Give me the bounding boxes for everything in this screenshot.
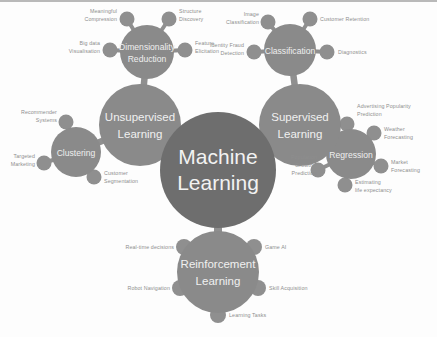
leaf-label-estimating-life-expectancy: Estimating life expectancy [355, 179, 392, 193]
hub-label-clustering: Clustering [57, 148, 96, 158]
leaf-label-diagnostics-line1: Diagnostics [338, 49, 367, 55]
leaf-node-targeted-marketing[interactable] [37, 156, 52, 171]
hub-label-supervised-line2: Learning [278, 128, 323, 140]
leaf-label-meaningful-compression-line1: Meaningful [90, 8, 117, 14]
leaf-label-skill-acquisition-line1: Skill Acquisition [269, 285, 308, 291]
leaf-label-game-ai: Game AI [265, 244, 286, 250]
leaf-label-feature-elicitation-line2: Elicitation [195, 48, 219, 54]
leaf-label-robot-navigation-line1: Robot Navigation [127, 285, 170, 291]
leaf-label-real-time-decisions: Real-time decisions [126, 244, 175, 250]
hub-label-classification: Classification [265, 46, 316, 56]
leaf-node-market-forecasting[interactable] [374, 159, 389, 174]
mind-map-canvas: Machine Learning Unsupervised Learning S… [0, 0, 437, 337]
leaf-label-market-forecasting-line2: Forecasting [391, 167, 420, 173]
hub-label-dimensionality-reduction-line1: Dimensionality [119, 42, 176, 52]
leaf-label-targeted-marketing-line1: Targeted [13, 153, 35, 159]
leaf-label-robot-navigation: Robot Navigation [127, 285, 170, 291]
leaf-label-weather-forecasting-line2: Forecasting [384, 134, 413, 140]
leaf-label-image-classification-line2: Classification [226, 19, 259, 25]
hub-label-reinforcement-line2: Learning [196, 275, 241, 287]
leaf-node-diagnostics[interactable] [320, 45, 335, 60]
leaf-label-structure-discovery: Structure Discovery [179, 8, 204, 22]
leaf-label-targeted-marketing: Targeted Marketing [11, 153, 35, 167]
hub-node-reinforcement-learning[interactable] [177, 231, 259, 313]
leaf-node-image-classification[interactable] [261, 15, 276, 30]
leaf-label-customer-segmentation-line2: Segmentation [104, 178, 138, 184]
leaf-label-skill-acquisition: Skill Acquisition [269, 285, 308, 291]
leaf-label-identity-fraud-detection-line1: Identity Fraud [210, 42, 244, 48]
leaf-label-big-data-visualisation: Big data Visualisation [69, 40, 100, 54]
leaf-label-real-time-decisions-line1: Real-time decisions [126, 244, 175, 250]
leaf-label-identity-fraud-detection-line2: Detection [221, 50, 244, 56]
hub-label-unsupervised-line1: Unsupervised [105, 111, 175, 123]
leaf-label-advertising-popularity-prediction-line2: Prediction [357, 111, 382, 117]
leaf-label-customer-retention: Customer Retention [320, 16, 369, 22]
leaf-label-structure-discovery-line1: Structure [179, 8, 202, 14]
leaf-node-recommender-systems[interactable] [59, 115, 74, 130]
leaf-label-recommender-systems-line1: Recommender [21, 109, 57, 115]
leaf-label-estimating-life-expectancy-line2: life expectancy [355, 187, 392, 193]
leaf-label-image-classification: Image Classification [226, 11, 259, 25]
leaf-label-weather-forecasting-line1: Weather [384, 126, 405, 132]
leaf-label-learning-tasks-line1: Learning Tasks [229, 312, 266, 318]
leaf-label-diagnostics: Diagnostics [338, 49, 367, 55]
leaf-label-customer-retention-line1: Customer Retention [320, 16, 369, 22]
leaf-node-structure-discovery[interactable] [162, 12, 177, 27]
leaf-label-customer-segmentation: Customer Segmentation [104, 170, 138, 184]
machine-learning-mind-map: Machine Learning Unsupervised Learning S… [0, 0, 437, 337]
leaf-node-feature-elicitation[interactable] [178, 43, 193, 58]
leaf-label-advertising-popularity-prediction: Advertising Popularity Prediction [357, 103, 411, 117]
leaf-label-targeted-marketing-line2: Marketing [11, 161, 35, 167]
leaf-label-market-forecasting-line1: Market [391, 159, 408, 165]
leaf-label-weather-forecasting: Weather Forecasting [384, 126, 413, 140]
leaf-node-customer-retention[interactable] [303, 12, 318, 27]
hub-label-reinforcement-line1: Reinforcement [181, 258, 257, 270]
leaf-label-recommender-systems-line2: Systems [36, 117, 57, 123]
leaf-node-meaningful-compression[interactable] [120, 12, 135, 27]
leaf-label-big-data-visualisation-line1: Big data [80, 40, 100, 46]
leaf-label-meaningful-compression-line2: Compression [84, 16, 117, 22]
center-label-line2: Learning [177, 171, 259, 194]
leaf-label-image-classification-line1: Image [244, 11, 259, 17]
leaf-label-market-forecasting: Market Forecasting [391, 159, 420, 173]
leaf-label-recommender-systems: Recommender Systems [21, 109, 57, 123]
leaf-node-estimating-life-expectancy[interactable] [338, 178, 353, 193]
leaf-label-population-growth-prediction-line3: Prediction [292, 170, 317, 176]
leaf-label-meaningful-compression: Meaningful Compression [84, 8, 117, 22]
hub-node-dimensionality-reduction[interactable] [120, 25, 174, 79]
leaf-label-structure-discovery-line2: Discovery [179, 16, 204, 22]
leaf-label-population-growth-prediction-line2: Growth [295, 162, 313, 168]
leaf-label-customer-segmentation-line1: Customer [104, 170, 128, 176]
leaf-node-big-data-visualisation[interactable] [103, 43, 118, 58]
leaf-label-learning-tasks: Learning Tasks [229, 312, 266, 318]
leaf-label-population-growth-prediction-line1: Population [291, 154, 317, 160]
leaf-node-identity-fraud-detection[interactable] [247, 45, 262, 60]
leaf-label-game-ai-line1: Game AI [265, 244, 286, 250]
hub-label-dimensionality-reduction-line2: Reduction [128, 54, 167, 64]
leaf-label-big-data-visualisation-line2: Visualisation [69, 48, 100, 54]
leaf-label-advertising-popularity-prediction-line1: Advertising Popularity [357, 103, 411, 109]
center-node-machine-learning[interactable] [160, 112, 276, 228]
hub-label-supervised-line1: Supervised [271, 111, 329, 123]
center-label-line1: Machine [178, 145, 257, 168]
hub-label-unsupervised-line2: Learning [118, 128, 163, 140]
leaf-label-estimating-life-expectancy-line1: Estimating [355, 179, 381, 185]
hub-label-regression: Regression [329, 150, 373, 160]
